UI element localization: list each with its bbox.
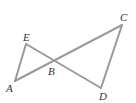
label-b: B xyxy=(48,65,55,77)
label-c: C xyxy=(120,11,128,23)
label-e: E xyxy=(22,31,30,43)
label-a: A xyxy=(5,82,13,94)
geometry-diagram: A B C D E xyxy=(0,0,136,103)
segment-ed xyxy=(26,44,101,88)
label-d: D xyxy=(98,90,107,102)
